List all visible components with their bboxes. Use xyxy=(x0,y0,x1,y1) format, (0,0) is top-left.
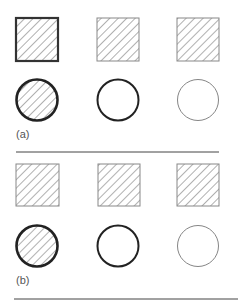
square-b-3 xyxy=(177,164,219,206)
circle-a-2 xyxy=(98,80,139,121)
square-b-1 xyxy=(16,164,59,206)
panel-a xyxy=(16,18,219,152)
panel-b xyxy=(14,164,238,299)
figure-canvas xyxy=(0,0,238,301)
circle-b-3 xyxy=(178,226,219,267)
circle-b-2 xyxy=(98,226,139,267)
square-a-2 xyxy=(97,18,139,61)
square-b-2 xyxy=(98,164,140,206)
circle-a-3 xyxy=(178,80,219,121)
square-a-1 xyxy=(16,18,58,61)
panel-label-a: (a) xyxy=(16,128,29,140)
square-a-3 xyxy=(177,18,219,61)
panel-label-b: (b) xyxy=(16,274,29,286)
circle-b-1 xyxy=(17,226,58,267)
circle-a-1 xyxy=(17,80,58,121)
